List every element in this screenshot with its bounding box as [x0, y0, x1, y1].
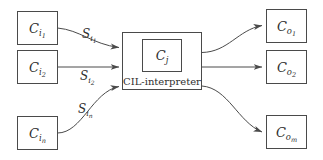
edge-output-1: [202, 26, 262, 53]
edge-output-3: [202, 86, 262, 132]
diagram-canvas: Ci1 Ci2 Cin Cj CIL-interpreter Co1 Co2 C…: [0, 0, 323, 160]
edge-label-2: Si2: [80, 69, 95, 86]
edge-label-1: Si1: [82, 27, 97, 44]
edge-label-3: Sin: [78, 102, 93, 119]
diagram-svg: Ci1 Ci2 Cin Cj CIL-interpreter Co1 Co2 C…: [0, 0, 323, 160]
interpreter-caption: CIL-interpreter: [123, 76, 201, 87]
